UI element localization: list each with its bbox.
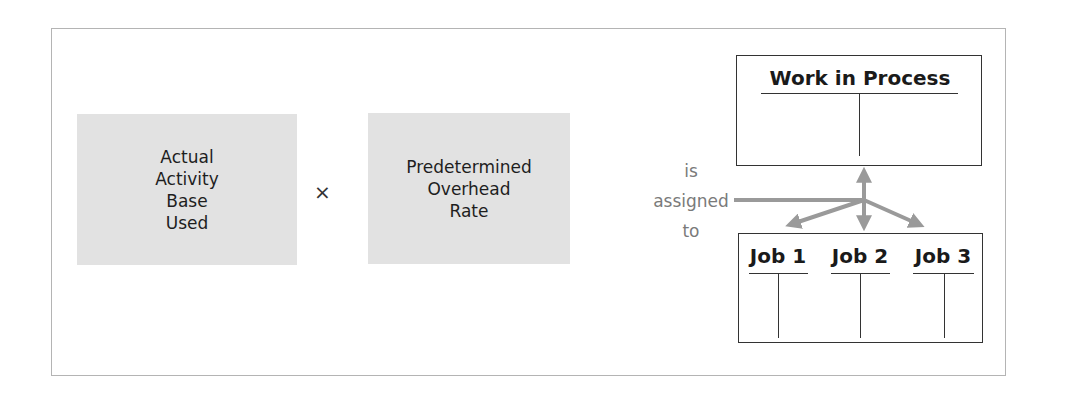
arrow-to-job-3-icon <box>864 200 918 224</box>
assignment-arrows <box>0 0 1066 406</box>
arrow-to-job-1-icon <box>792 200 864 224</box>
